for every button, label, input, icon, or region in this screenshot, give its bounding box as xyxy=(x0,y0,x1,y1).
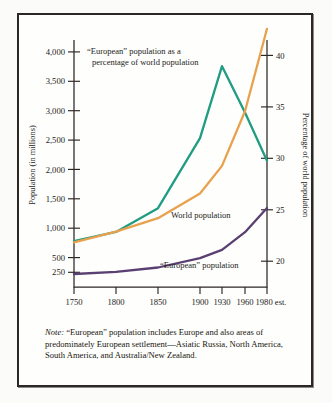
chart-plot-area: 250 500 1,000 1,500 2,000 2,500 3,000 3,… xyxy=(19,15,315,315)
ytick-label: 2,000 xyxy=(46,165,65,175)
y2tick-label: 20 xyxy=(276,256,285,266)
line-chart: 250 500 1,000 1,500 2,000 2,500 3,000 3,… xyxy=(19,15,315,315)
note-text: “European” population includes Europe an… xyxy=(45,327,283,360)
xtick-label: 1750 xyxy=(65,297,82,307)
ytick-label: 3,000 xyxy=(46,106,65,116)
axis-lines xyxy=(74,40,267,287)
ytick-label: 3,500 xyxy=(46,76,65,86)
y2tick-label: 30 xyxy=(276,153,285,163)
figure-frame: 250 500 1,000 1,500 2,000 2,500 3,000 3,… xyxy=(17,13,313,387)
y-axis-title: Population (in millions) xyxy=(28,125,37,205)
ytick-label: 1,000 xyxy=(46,223,65,233)
y2tick-label: 35 xyxy=(276,102,285,112)
x-axis-ticks xyxy=(74,287,267,294)
ytick-label: 4,000 xyxy=(46,47,65,57)
figure-note: Note: “European” population includes Eur… xyxy=(45,327,295,362)
y2tick-label: 25 xyxy=(276,205,285,215)
y2tick-label: 40 xyxy=(276,51,285,61)
right-axis-ticklabels: 20 25 30 35 40 xyxy=(276,51,285,267)
annotation-line-1: “European” population as a xyxy=(87,46,181,56)
xtick-label: 1930 xyxy=(213,297,230,307)
ytick-label: 250 xyxy=(52,267,65,277)
left-axis-ticklabels: 250 500 1,000 1,500 2,000 2,500 3,000 3,… xyxy=(46,47,65,277)
xtick-label: 1900 xyxy=(191,297,208,307)
xtick-label: 1800 xyxy=(107,297,124,307)
xtick-label: 1980 est. xyxy=(255,297,286,307)
xtick-label: 1850 xyxy=(149,297,166,307)
note-prefix: Note: xyxy=(45,327,64,337)
xtick-label: 1960 xyxy=(236,297,253,307)
annotation-european-population: “European” population xyxy=(160,260,239,270)
ytick-label: 1,500 xyxy=(46,194,65,204)
x-axis-ticklabels: 1750 1800 1850 1900 1930 1960 1980 est. xyxy=(65,297,286,307)
y2-axis-title: Percentage of world population xyxy=(301,113,310,218)
ytick-label: 2,500 xyxy=(46,135,65,145)
annotation-european-percentage: “European” population as a percentage of… xyxy=(87,46,199,67)
annotation-world-population: World population xyxy=(171,210,231,220)
ytick-label: 500 xyxy=(52,253,65,263)
annotation-line-2: percentage of world population xyxy=(92,57,199,67)
